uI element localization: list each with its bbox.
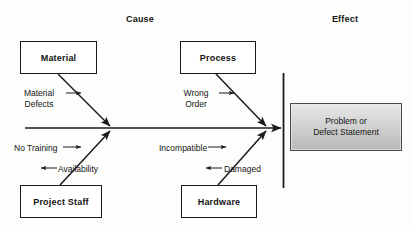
fishbone-diagram-canvas: Cause Effect Material Process Project St…	[0, 0, 412, 229]
category-label-process: Process	[200, 53, 236, 63]
effect-box[interactable]: Problem or Defect Statement	[290, 103, 402, 151]
category-label-hardware: Hardware	[198, 197, 241, 207]
section-header-effect: Effect	[313, 14, 377, 24]
category-label-material: Material	[41, 53, 77, 63]
cause-label-damaged: Damaged	[224, 164, 261, 175]
category-box-project-staff[interactable]: Project Staff	[20, 185, 102, 218]
category-label-project-staff: Project Staff	[33, 197, 89, 207]
cause-label-availability: Availability	[58, 164, 98, 175]
category-box-process[interactable]: Process	[180, 41, 256, 74]
effect-box-label: Problem or Defect Statement	[313, 116, 379, 138]
cause-label-wrong-order: Wrong Order	[174, 88, 218, 109]
cause-label-incompatible: Incompatible	[159, 143, 207, 154]
bone-material	[58, 74, 110, 126]
section-header-cause: Cause	[108, 14, 172, 24]
cause-label-no-training: No Training	[14, 143, 57, 154]
bone-process	[216, 74, 266, 126]
bone-project-staff	[60, 131, 110, 185]
bone-hardware	[218, 131, 266, 185]
category-box-hardware[interactable]: Hardware	[181, 185, 257, 218]
category-box-material[interactable]: Material	[20, 41, 97, 74]
cause-label-material-defects: Material Defects	[13, 88, 65, 109]
